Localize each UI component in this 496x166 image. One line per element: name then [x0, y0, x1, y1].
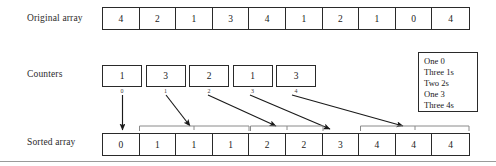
- sorted-array-cell: 3: [323, 134, 360, 155]
- legend-box: One 0Three 1sTwo 2sOne 3Three 4s: [418, 52, 478, 112]
- counter-index-label: 4: [276, 88, 316, 94]
- original-array-cell: 1: [286, 8, 323, 29]
- bracket-twos: [251, 126, 324, 131]
- counter-box: 1: [233, 65, 273, 87]
- counter-box: 3: [276, 65, 316, 87]
- sorted-array: 0111223444: [102, 133, 470, 156]
- legend-line: One 3: [424, 89, 477, 100]
- original-array-cell: 4: [103, 8, 140, 29]
- bracket-ones: [140, 126, 250, 131]
- counting-sort-diagram: Original array Counters Sorted array 421…: [0, 0, 496, 166]
- legend-line: Three 4s: [424, 100, 477, 111]
- counter-index-label: 1: [146, 88, 186, 94]
- original-array-label: Original array: [27, 13, 83, 23]
- bottom-divider: [0, 161, 496, 162]
- arrow-counter-1: [166, 95, 190, 126]
- arrow-counter-3: [250, 95, 330, 129]
- counters-label: Counters: [27, 69, 63, 79]
- legend-line: Two 2s: [424, 78, 477, 89]
- original-array-cell: 2: [323, 8, 360, 29]
- sorted-array-cell: 0: [103, 134, 140, 155]
- arrow-counter-4: [292, 95, 403, 126]
- sorted-array-cell: 4: [396, 134, 433, 155]
- counter-index-label: 2: [189, 88, 229, 94]
- counter-index-label: 0: [102, 88, 142, 94]
- original-array-cell: 3: [213, 8, 250, 29]
- sorted-array-cell: 1: [213, 134, 250, 155]
- counter-box: 2: [189, 65, 229, 87]
- counter-index-label: 3: [233, 88, 273, 94]
- sorted-array-cell: 4: [359, 134, 396, 155]
- original-array-cell: 1: [359, 8, 396, 29]
- original-array-cell: 4: [249, 8, 286, 29]
- original-array-cell: 2: [140, 8, 177, 29]
- original-array-cell: 1: [176, 8, 213, 29]
- sorted-array-cell: 4: [432, 134, 469, 155]
- arrow-counter-2: [208, 95, 276, 126]
- counter-box: 1: [102, 65, 142, 87]
- sorted-array-label: Sorted array: [27, 137, 76, 147]
- original-array-cell: 0: [396, 8, 433, 29]
- bracket-fours: [361, 126, 470, 131]
- legend-line: One 0: [424, 56, 477, 67]
- counter-box: 3: [146, 65, 186, 87]
- sorted-array-cell: 2: [286, 134, 323, 155]
- counters-row: 1031221334: [102, 65, 317, 87]
- sorted-array-cell: 2: [249, 134, 286, 155]
- original-array-cell: 4: [432, 8, 469, 29]
- original-array: 4213412104: [102, 7, 470, 30]
- legend-line: Three 1s: [424, 67, 477, 78]
- sorted-array-cell: 1: [176, 134, 213, 155]
- sorted-array-cell: 1: [140, 134, 177, 155]
